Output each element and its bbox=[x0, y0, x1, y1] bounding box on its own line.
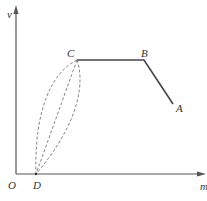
point-label-b: B bbox=[141, 47, 148, 59]
point-d-marker bbox=[35, 173, 37, 175]
dashed-line-straight bbox=[36, 60, 77, 174]
process-diagram: v m O C B A D bbox=[0, 0, 207, 201]
solid-path-abc bbox=[77, 60, 173, 104]
point-label-c: C bbox=[67, 47, 75, 59]
y-axis-arrow-icon bbox=[14, 5, 19, 14]
origin-label: O bbox=[8, 179, 16, 191]
y-axis-label: v bbox=[7, 8, 12, 20]
x-axis-arrow-icon bbox=[197, 172, 206, 177]
point-label-d: D bbox=[32, 179, 41, 191]
point-label-a: A bbox=[175, 102, 183, 114]
x-axis-label: m bbox=[200, 180, 207, 192]
